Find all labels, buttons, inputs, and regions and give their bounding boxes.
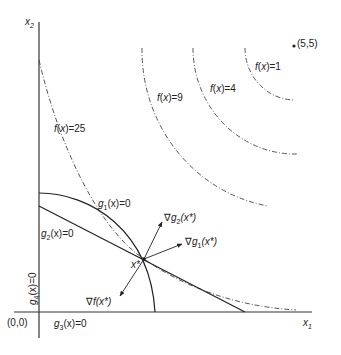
constraint-g2-line bbox=[39, 206, 245, 312]
x2-axis-label: x2 bbox=[24, 16, 34, 29]
grad-g1-arrow bbox=[144, 244, 182, 259]
contour-label-f1: f(x)=1 bbox=[255, 61, 281, 72]
grad-g2-arrow bbox=[144, 222, 162, 259]
contour-f4 bbox=[193, 48, 297, 154]
grad-g2-label: ∇g2(x*) bbox=[163, 212, 196, 225]
unconstrained-optimum-point bbox=[292, 44, 295, 47]
constraint-g1-label: g1(x)=0 bbox=[98, 198, 131, 211]
contour-label-f4: f(x)=4 bbox=[210, 83, 236, 94]
grad-f-label: ∇f(x*) bbox=[85, 296, 111, 307]
constraint-g2-label: g2(x)=0 bbox=[41, 228, 74, 241]
constraint-g1-curve bbox=[39, 193, 155, 312]
optimum-label: x* bbox=[130, 259, 141, 270]
constraint-g3-label: g3(x)=0 bbox=[54, 318, 87, 331]
contour-f9 bbox=[142, 48, 268, 206]
kkt-diagram: x2 x1 (0,0) (5,5) f(x)=1 f(x)=4 f(x)=9 f… bbox=[0, 0, 341, 355]
grad-g1-label: ∇g1(x*) bbox=[184, 236, 217, 249]
origin-label: (0,0) bbox=[7, 317, 28, 328]
contour-f1 bbox=[245, 48, 295, 100]
contour-label-f9: f(x)=9 bbox=[157, 92, 183, 103]
x1-axis-label: x1 bbox=[302, 317, 312, 330]
constraint-g4-label: g4(x)=0 bbox=[27, 272, 40, 305]
unconstrained-optimum-label: (5,5) bbox=[297, 38, 318, 49]
contour-label-f25: f(x)=25 bbox=[54, 123, 86, 134]
